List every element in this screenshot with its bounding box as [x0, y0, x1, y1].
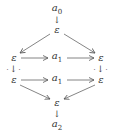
- node-a1-row1-sub: 1: [58, 56, 62, 64]
- dotted-left-arrow: ·↓·: [6, 65, 22, 74]
- node-eps-right-row1: ε: [98, 53, 103, 63]
- node-eps-left-row2: ε: [11, 75, 16, 85]
- edge-eps-top-to-eps-left: [20, 34, 50, 53]
- dotted-right-arrow: ·↓·: [93, 65, 109, 74]
- node-a1-row2-sub: 1: [58, 78, 62, 86]
- dot-icon: ·: [18, 65, 22, 74]
- edge-eps-top-to-eps-right: [64, 34, 95, 53]
- edge-eps-r2-to-eps-bot: [64, 85, 95, 99]
- edge-eps-l2-to-eps-bot: [20, 85, 50, 99]
- node-a1-row1: a1: [52, 51, 62, 65]
- node-a1-row2: a1: [52, 73, 62, 87]
- node-eps-top: ε: [54, 25, 59, 35]
- node-eps-bottom: ε: [54, 98, 59, 108]
- dot-icon: ·: [105, 65, 109, 74]
- down-arrow-icon: ↓: [10, 64, 19, 74]
- node-eps-right-row2: ε: [98, 75, 103, 85]
- node-a2: a2: [52, 119, 62, 133]
- down-arrow-icon: ↓: [97, 64, 106, 74]
- node-eps-left-row1: ε: [11, 53, 16, 63]
- node-a2-sub: 2: [58, 124, 62, 132]
